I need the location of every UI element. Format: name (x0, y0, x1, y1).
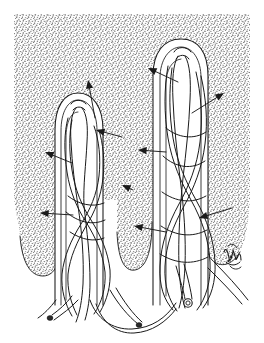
vessel-tip-left (47, 316, 53, 321)
right-villus (153, 39, 208, 305)
mucosa-background-stipple (14, 14, 250, 284)
villi-illustration-svg (0, 0, 264, 343)
figure-root: Intestinal villi with vascular network (0, 0, 264, 343)
vessel-tip-centre (136, 323, 142, 328)
cut-vessel-end-lumen (184, 299, 192, 307)
